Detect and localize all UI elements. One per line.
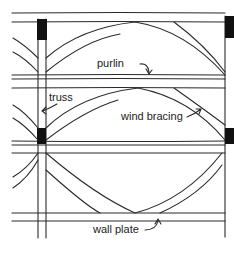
label-text: wall plate (92, 223, 139, 235)
arrow-icon (187, 109, 201, 117)
label-text: truss (49, 91, 73, 103)
truss-left (37, 19, 47, 238)
roof-framing-diagram: purlin truss wind bracing wall plate (0, 0, 234, 256)
label-purlin: purlin (97, 57, 152, 74)
truss-bearing-block (225, 128, 234, 144)
truss-bearing-block (37, 128, 46, 144)
truss-bearing-block (225, 16, 234, 38)
label-text: wind bracing (120, 110, 183, 122)
wind-bracing-bottom-bay (46, 153, 222, 213)
purlin-line (12, 13, 225, 14)
truss-bearing-block (37, 19, 47, 40)
arrow-icon (140, 64, 152, 74)
truss-right (225, 16, 234, 237)
label-wind-bracing: wind bracing (120, 109, 201, 122)
arrow-icon (42, 104, 57, 114)
label-text: purlin (97, 57, 124, 69)
purlin-line (12, 75, 225, 76)
purlins (12, 13, 225, 222)
purlin-line (12, 79, 225, 80)
purlin-line (12, 88, 225, 89)
